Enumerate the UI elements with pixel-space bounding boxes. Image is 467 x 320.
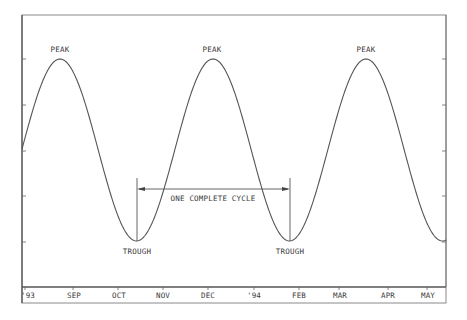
peak-label-2: PEAK (203, 45, 222, 54)
x-label-dec: DEC (201, 291, 215, 300)
cycle-chart: '93 SEP OCT NOV DEC '94 FEB MAR APR MAY … (0, 0, 467, 320)
x-label-feb: FEB (292, 291, 306, 300)
x-label-sep: SEP (67, 291, 81, 300)
trough-label-2: TROUGH (276, 247, 305, 256)
x-tick-labels: '93 SEP OCT NOV DEC '94 FEB MAR APR MAY (21, 291, 435, 300)
cycle-label: ONE COMPLETE CYCLE (171, 194, 256, 203)
x-label-mar: MAR (333, 291, 347, 300)
x-label-94: '94 (247, 291, 261, 300)
x-label-apr: APR (381, 291, 395, 300)
x-label-93: '93 (21, 291, 35, 300)
cycle-curve (22, 59, 446, 241)
x-label-oct: OCT (112, 291, 126, 300)
y-ticks-right (442, 59, 446, 242)
trough-label-1: TROUGH (123, 247, 152, 256)
arrowhead-left (137, 187, 145, 191)
x-label-nov: NOV (156, 291, 170, 300)
arrowhead-right (282, 187, 290, 191)
chart-frame (22, 15, 446, 303)
peak-label-1: PEAK (51, 45, 70, 54)
x-label-may: MAY (421, 291, 435, 300)
peak-label-3: PEAK (357, 45, 376, 54)
